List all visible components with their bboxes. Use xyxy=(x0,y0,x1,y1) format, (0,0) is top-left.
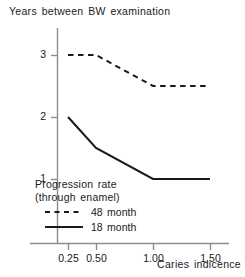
legend-title: Progression rate xyxy=(35,178,165,191)
series-layer xyxy=(0,0,245,277)
x-axis-title: Caries indicence xyxy=(157,258,241,270)
legend-label-48-month: 48 month xyxy=(91,206,136,218)
solid-line-icon xyxy=(43,222,85,232)
legend-item-48-month: 48 month xyxy=(43,204,165,219)
plot-area: 3 2 1 0.25 0.50 1.00 1.50 Progression ra… xyxy=(0,0,245,277)
chart-figure: Years between BW examination 3 2 1 xyxy=(0,0,245,277)
legend-item-18-month: 18 month xyxy=(43,219,165,234)
dashed-line-icon xyxy=(43,207,85,217)
y-tick-label-2: 2 xyxy=(26,110,46,122)
series-48-month-line xyxy=(68,55,210,86)
x-tick-label-0-50: 0.50 xyxy=(76,252,117,264)
legend-subtitle: (through enamel) xyxy=(35,191,165,204)
legend-label-18-month: 18 month xyxy=(91,221,136,233)
series-18-month-line xyxy=(68,117,210,179)
legend: Progression rate (through enamel) 48 mon… xyxy=(35,178,165,234)
y-tick-label-3: 3 xyxy=(26,48,46,60)
